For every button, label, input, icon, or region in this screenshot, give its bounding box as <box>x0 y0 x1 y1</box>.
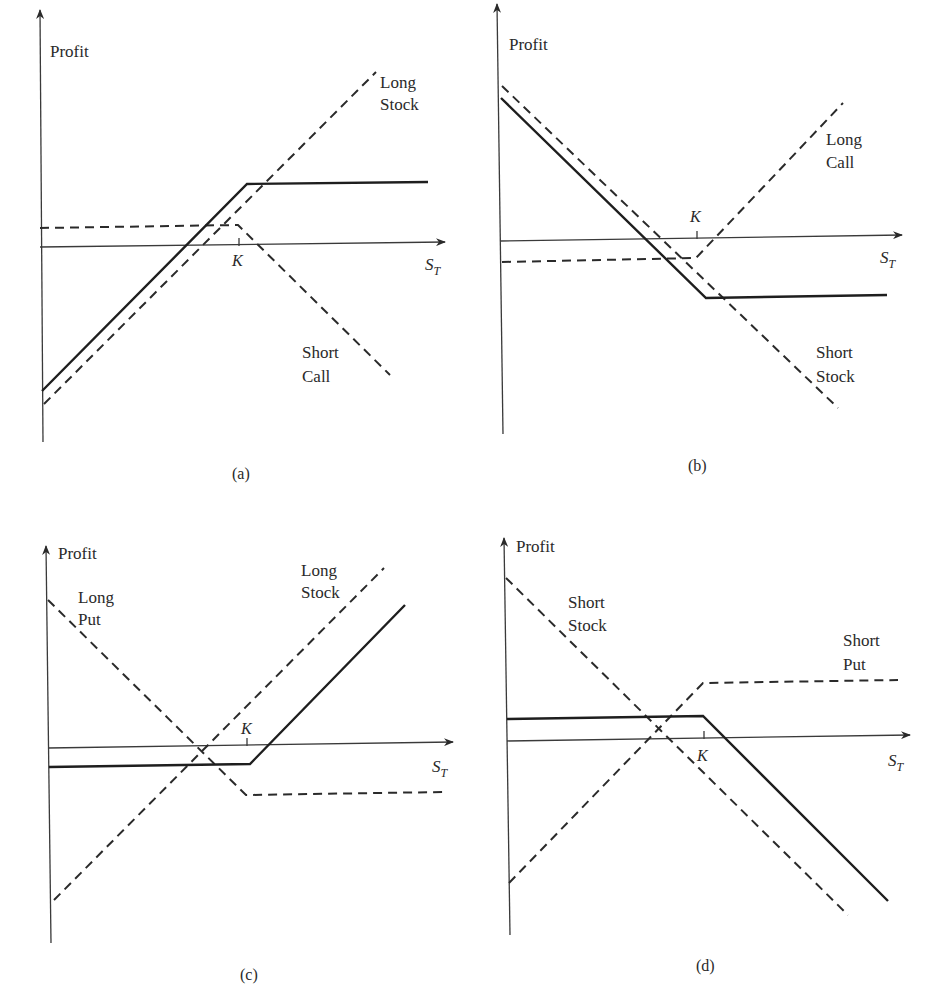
panel-caption: (a) <box>232 465 250 483</box>
panel-c: Profit ST K LongPut LongStock (c) <box>46 544 453 984</box>
x-axis-arrow-icon <box>48 742 453 748</box>
y-axis-label: Profit <box>516 537 555 556</box>
strike-label: K <box>240 720 253 737</box>
strike-label: K <box>689 208 702 225</box>
combined-payoff-line <box>49 605 405 767</box>
panel-caption: (d) <box>696 957 715 975</box>
y-axis-label: Profit <box>58 544 97 563</box>
x-axis-label: ST <box>432 757 449 780</box>
short-stock-line <box>502 86 838 408</box>
y-axis-label: Profit <box>50 42 89 61</box>
series-label-short-put: ShortPut <box>843 631 880 674</box>
strike-label: K <box>696 747 709 764</box>
series-label-long-call: LongCall <box>826 130 862 172</box>
series-label-long-stock: LongStock <box>301 561 340 602</box>
strike-label: K <box>231 252 244 269</box>
panel-caption: (c) <box>240 966 258 984</box>
panel-b: Profit ST K LongCall ShortStock (b) <box>497 4 902 475</box>
x-axis-arrow-icon <box>40 242 445 247</box>
series-label-short-stock: ShortStock <box>568 593 607 635</box>
x-axis-arrow-icon <box>500 235 902 241</box>
panel-d: Profit ST K ShortStock ShortPut (d) <box>504 537 910 975</box>
series-label-short-stock: ShortStock <box>816 343 855 386</box>
short-stock-line <box>506 578 848 915</box>
x-axis-label: ST <box>880 248 897 271</box>
x-axis-arrow-icon <box>507 735 910 741</box>
x-axis-label: ST <box>888 751 905 774</box>
panel-a: Profit ST K LongStock ShortCall (a) <box>40 10 445 483</box>
x-axis-label: ST <box>425 255 442 278</box>
y-axis-label: Profit <box>509 35 548 54</box>
combined-payoff-line <box>507 716 888 901</box>
long-stock-line <box>54 568 384 900</box>
y-axis-arrow-icon <box>40 10 43 442</box>
panel-caption: (b) <box>688 457 707 475</box>
series-label-short-call: ShortCall <box>302 343 339 386</box>
y-axis-arrow-icon <box>46 546 51 943</box>
y-axis-arrow-icon <box>504 538 510 935</box>
series-label-long-put: LongPut <box>78 588 114 629</box>
combined-payoff-line <box>42 182 428 391</box>
y-axis-arrow-icon <box>497 4 503 434</box>
combined-payoff-line <box>501 98 887 298</box>
option-strategy-figure: Profit ST K LongStock ShortCall (a) Prof… <box>0 0 935 1003</box>
series-label-long-stock: LongStock <box>380 73 419 114</box>
